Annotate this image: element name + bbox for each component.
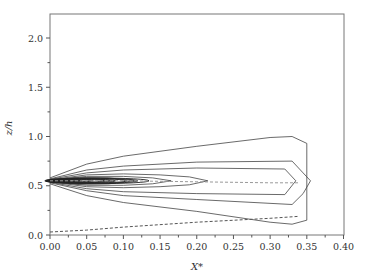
x-tick-label: 0.40 [333,241,354,252]
x-tick-label: 0.00 [39,241,60,252]
plot-frame [50,14,344,235]
y-tick-label: 0.5 [28,180,43,191]
x-tick-label: 0.30 [260,241,281,252]
y-axis-label: z/h [3,120,14,136]
y-axis-ticks: 0.00.51.01.52.0 [28,33,50,241]
y-tick-label: 2.0 [28,33,43,44]
x-axis-ticks: 0.000.050.100.150.200.250.300.350.40 [39,235,354,252]
contour-chart: 0.000.050.100.150.200.250.300.350.40 0.0… [0,0,368,278]
x-tick-label: 0.10 [113,241,134,252]
y-tick-label: 0.0 [28,230,43,241]
x-tick-label: 0.15 [149,241,170,252]
x-tick-label: 0.05 [76,241,97,252]
x-axis-label: X* [190,261,203,272]
x-tick-label: 0.25 [223,241,244,252]
y-tick-label: 1.5 [28,82,43,93]
x-tick-label: 0.20 [186,241,207,252]
x-tick-label: 0.35 [296,241,317,252]
y-tick-label: 1.0 [28,131,43,142]
